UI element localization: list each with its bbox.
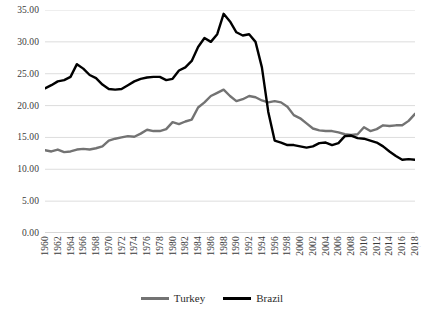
x-tick-label: 1972: [117, 236, 127, 256]
x-tick-label: 1966: [78, 236, 88, 256]
x-tick-label: 1974: [129, 236, 139, 256]
x-tick-label: 1984: [193, 236, 203, 256]
y-axis: 0.005.0010.0015.0020.0025.0030.0035.00: [0, 0, 42, 243]
series-line-brazil: [45, 14, 415, 160]
x-tick-label: 2008: [346, 236, 356, 256]
x-tick-label: 1962: [53, 236, 63, 256]
x-tick-label: 1996: [270, 236, 280, 256]
x-tick-label: 2000: [295, 236, 305, 256]
x-tick-label: 1970: [104, 236, 114, 256]
y-tick-label: 0.00: [22, 228, 39, 238]
x-axis: 1960196219641966196819701972197419761978…: [45, 236, 415, 288]
corner-mark: ∙∙: [418, 243, 422, 251]
x-tick-label: 1978: [155, 236, 165, 256]
x-tick-label: 1994: [257, 236, 267, 256]
x-tick-label: 1990: [231, 236, 241, 256]
y-tick-label: 20.00: [17, 101, 39, 111]
x-tick-label: 2004: [321, 236, 331, 256]
x-tick-label: 2012: [372, 236, 382, 256]
x-tick-label: 2010: [359, 236, 369, 256]
x-tick-label: 1980: [168, 236, 178, 256]
legend-label: Brazil: [256, 292, 283, 304]
chart-legend: TurkeyBrazil: [0, 292, 424, 304]
x-tick-label: 1960: [40, 236, 50, 256]
y-tick-label: 15.00: [17, 132, 39, 142]
legend-item-turkey[interactable]: Turkey: [141, 292, 205, 304]
x-tick-label: 2014: [384, 236, 394, 256]
y-tick-label: 10.00: [17, 164, 39, 174]
x-tick-label: 1986: [206, 236, 216, 256]
legend-item-brazil[interactable]: Brazil: [223, 292, 283, 304]
legend-swatch-icon: [223, 297, 251, 300]
y-tick-label: 35.00: [17, 5, 39, 15]
y-tick-label: 30.00: [17, 37, 39, 47]
y-tick-label: 25.00: [17, 69, 39, 79]
legend-label: Turkey: [174, 292, 205, 304]
line-chart: 0.005.0010.0015.0020.0025.0030.0035.00 1…: [0, 0, 424, 321]
y-tick-label: 5.00: [22, 196, 39, 206]
series-line-turkey: [45, 90, 415, 152]
plot-area: [45, 10, 415, 233]
x-tick-label: 2006: [333, 236, 343, 256]
x-tick-label: 2016: [397, 236, 407, 256]
x-tick-label: 1964: [66, 236, 76, 256]
x-tick-label: 2002: [308, 236, 318, 256]
x-tick-label: 1998: [282, 236, 292, 256]
x-tick-label: 1992: [244, 236, 254, 256]
x-tick-label: 1988: [219, 236, 229, 256]
x-tick-label: 1968: [91, 236, 101, 256]
x-tick-label: 1982: [180, 236, 190, 256]
x-tick-label: 1976: [142, 236, 152, 256]
series-lines: [45, 10, 415, 233]
legend-swatch-icon: [141, 297, 169, 300]
